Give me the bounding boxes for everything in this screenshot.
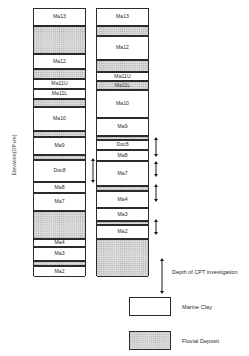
arrow-head-up — [154, 184, 158, 187]
soil-layer-band: Doc8 — [97, 140, 148, 150]
soil-layer-label: Ma7 — [117, 171, 127, 176]
soil-layer-label: Ma2 — [117, 229, 127, 234]
soil-layer-band: Ma13 — [97, 9, 148, 26]
soil-layer-band: Ma12 — [34, 54, 85, 69]
soil-layer-band: Ma11U — [34, 79, 85, 89]
arrow-shaft — [92, 160, 93, 180]
soil-layer-band — [97, 60, 148, 72]
soil-layer-label: Ma4 — [54, 240, 64, 245]
soil-layer-label: Ma8 — [54, 185, 64, 190]
soil-layer-label: Ma7 — [54, 199, 64, 204]
soil-layer-band: Ma4 — [34, 239, 85, 247]
soil-layer-band: Ma2 — [97, 225, 148, 239]
soil-layer-label: Ma9 — [54, 143, 64, 148]
soil-layer-label: Ma10 — [53, 116, 66, 121]
soil-layer-band — [34, 69, 85, 79]
cpt-interval-arrow — [151, 137, 160, 157]
arrow-shaft — [161, 260, 162, 291]
soil-layer-band: Ma2 — [34, 266, 85, 277]
soil-layer-label: Ma3 — [117, 212, 127, 217]
soil-layer-label: Doc8 — [53, 168, 65, 173]
soil-layer-label: Ma11U — [114, 74, 130, 79]
soil-layer-band: Ma8 — [34, 182, 85, 193]
soil-layer-label: Ma9 — [117, 124, 127, 129]
y-axis-label: Elevation(OP+m) — [11, 110, 17, 200]
soil-column-left: Ma13Ma12Ma11UMa11LMa10Ma9Doc8Ma8Ma7Ma4Ma… — [33, 8, 86, 276]
soil-layer-band: Ma8 — [97, 150, 148, 161]
soil-layer-label: Ma12 — [116, 45, 129, 50]
arrow-head-up — [154, 161, 158, 164]
soil-layer-band: Ma3 — [34, 247, 85, 261]
legend-swatch-fluvial-deposit — [129, 331, 171, 350]
soil-layer-label: Ma10 — [116, 101, 129, 106]
cpt-interval-arrow — [151, 161, 160, 177]
arrow-head-up — [160, 258, 164, 261]
arrow-head-down — [160, 291, 164, 294]
soil-layer-band — [34, 26, 85, 54]
soil-layer-label: Ma13 — [53, 14, 66, 19]
arrow-head-down — [154, 199, 158, 202]
soil-layer-band: Ma4 — [97, 191, 148, 208]
soil-layer-label: Ma13 — [116, 14, 129, 19]
arrow-shaft — [155, 163, 156, 174]
soil-layer-label: Doc8 — [116, 142, 128, 147]
soil-layer-band: Ma9 — [34, 137, 85, 155]
soil-layer-label: Ma4 — [117, 197, 127, 202]
soil-layer-label: Ma11L — [115, 83, 130, 88]
cpt-interval-arrow — [151, 184, 160, 202]
soil-layer-band — [34, 99, 85, 107]
soil-layer-band: Ma13 — [34, 9, 85, 26]
soil-layer-band: Ma3 — [97, 208, 148, 221]
cpt-interval-arrow — [151, 219, 160, 235]
legend-swatch-marine-clay — [129, 297, 171, 316]
soil-layer-band: Ma10 — [34, 107, 85, 131]
arrow-head-up — [154, 219, 158, 222]
stratigraphic-profile-figure: Elevation(OP+m) Ma13Ma12Ma11UMa11LMa10Ma… — [0, 0, 249, 356]
arrow-head-down — [154, 232, 158, 235]
soil-layer-band: Ma11L — [97, 81, 148, 90]
soil-layer-label: Ma8 — [117, 153, 127, 158]
arrow-shaft — [155, 186, 156, 199]
soil-layer-band: Ma10 — [97, 90, 148, 118]
soil-layer-label: Ma11L — [52, 91, 67, 96]
soil-layer-label: Ma2 — [54, 269, 64, 274]
arrow-shaft — [155, 139, 156, 154]
soil-layer-band: Doc8 — [34, 160, 85, 182]
soil-layer-band: Ma12 — [97, 36, 148, 60]
soil-layer-band: Ma7 — [34, 193, 85, 211]
soil-layer-label: Ma12 — [53, 59, 66, 64]
arrow-head-up — [154, 137, 158, 140]
soil-layer-band — [97, 239, 148, 277]
soil-layer-band — [97, 26, 148, 36]
soil-layer-label: Ma11U — [51, 81, 67, 86]
arrow-shaft — [155, 221, 156, 232]
cpt-depth-annotation-arrow — [157, 258, 166, 294]
soil-layer-band — [34, 211, 85, 239]
soil-layer-band: Ma11L — [34, 89, 85, 99]
arrow-head-down — [154, 174, 158, 177]
legend-label-fluvial-deposit: Fluvial Deposit — [182, 338, 219, 344]
legend-label-marine-clay: Marine Clay — [182, 304, 212, 310]
arrow-head-down — [154, 154, 158, 157]
cpt-depth-annotation-label: Depth of CPT investigation — [172, 269, 238, 275]
soil-layer-band: Ma9 — [97, 118, 148, 136]
arrow-head-down — [91, 180, 95, 183]
soil-column-right: Ma13Ma12Ma11UMa11LMa10Ma9Doc8Ma8Ma7Ma4Ma… — [96, 8, 149, 276]
soil-layer-band: Ma7 — [97, 161, 148, 186]
soil-layer-label: Ma3 — [54, 251, 64, 256]
soil-layer-band: Ma11U — [97, 72, 148, 81]
arrow-head-up — [91, 158, 95, 161]
